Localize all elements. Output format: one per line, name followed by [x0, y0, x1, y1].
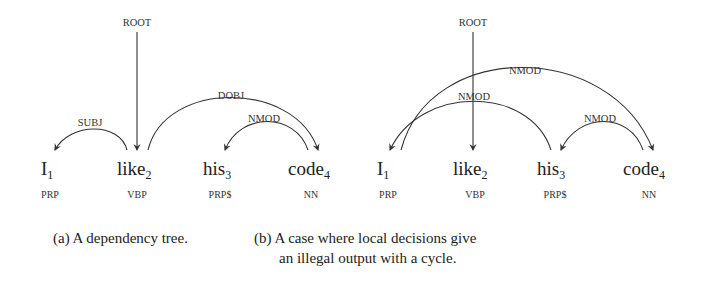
pos-tag: NN	[642, 189, 656, 200]
pos-tag: PRP$	[544, 189, 567, 200]
arc-nmod-i-code	[401, 68, 653, 151]
arc-label-dobj: DOBJ	[218, 90, 244, 101]
svg-text:I1: I1	[377, 158, 389, 182]
token-3: his3 PRP$	[537, 158, 566, 200]
panel-b-cycle: ROOT NMOD NMOD NMOD I1 PRP like2 VBP his…	[377, 17, 665, 200]
svg-text:code4: code4	[288, 158, 330, 182]
caption-a: (a) A dependency tree.	[53, 228, 188, 248]
token-2: like2 VBP	[117, 158, 152, 200]
pos-tag: VBP	[465, 189, 485, 200]
token-1: I1 PRP	[41, 158, 59, 200]
pos-tag: VBP	[127, 189, 147, 200]
panel-a-tree: ROOT SUBJ DOBJ NMOD I1 PRP like2 VBP his…	[41, 17, 330, 200]
pos-tag: PRP$	[209, 189, 232, 200]
caption-b: (b) A case where local decisions give an…	[254, 228, 724, 268]
token-3: his3 PRP$	[203, 158, 231, 200]
arc-label-nmod-middle: NMOD	[458, 91, 491, 102]
svg-text:code4: code4	[623, 158, 665, 182]
arc-nmod-code-his	[561, 122, 643, 151]
arc-label-subj: SUBJ	[78, 117, 103, 128]
svg-text:his3: his3	[537, 158, 565, 182]
svg-text:like2: like2	[117, 158, 152, 182]
arc-dobj	[148, 98, 318, 151]
token-4: code4 NN	[288, 158, 330, 200]
root-label: ROOT	[459, 17, 488, 28]
arc-label-nmod-inner: NMOD	[584, 113, 617, 124]
pos-tag: NN	[304, 189, 318, 200]
token-2: like2 VBP	[453, 158, 488, 200]
svg-text:like2: like2	[453, 158, 488, 182]
token-4: code4 NN	[623, 158, 665, 200]
arc-nmod	[225, 122, 308, 151]
pos-tag: PRP	[41, 189, 59, 200]
arc-label-nmod: NMOD	[248, 113, 281, 124]
arc-nmod-his-i	[390, 101, 551, 150]
svg-text:his3: his3	[203, 158, 231, 182]
arc-subj	[55, 129, 127, 150]
caption-b-line1: (b) A case where local decisions give	[254, 228, 724, 248]
pos-tag: PRP	[379, 189, 397, 200]
svg-text:I1: I1	[41, 158, 53, 182]
arc-label-nmod-outer: NMOD	[509, 65, 542, 76]
caption-b-line2: an illegal output with a cycle.	[254, 248, 724, 268]
token-1: I1 PRP	[377, 158, 397, 200]
root-label: ROOT	[123, 17, 152, 28]
